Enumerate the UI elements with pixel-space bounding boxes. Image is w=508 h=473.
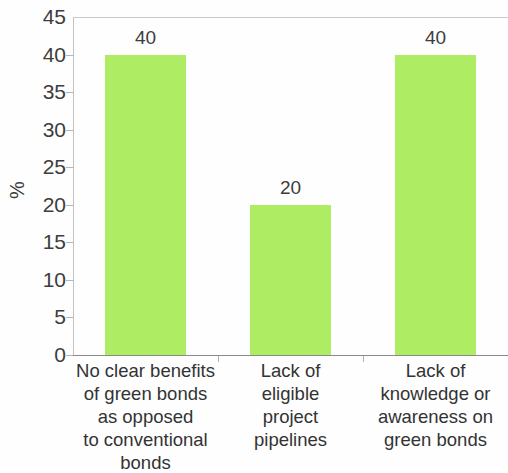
y-tick-label: 30 (22, 119, 66, 140)
bar-value-label: 40 (396, 28, 476, 47)
y-tick-mark (66, 130, 73, 131)
category-label-line: as opposed (73, 405, 218, 428)
bar (395, 55, 475, 355)
bar-value-label: 20 (251, 178, 331, 197)
category-label-line: of green bonds (73, 382, 218, 405)
y-tick-label: 10 (22, 269, 66, 290)
y-tick-mark (66, 205, 73, 206)
category-label-line: bonds (73, 451, 218, 473)
category-label: No clear benefitsof green bondsas oppose… (73, 359, 218, 473)
category-label-line: to conventional (73, 428, 218, 451)
y-tick-label: 15 (22, 231, 66, 252)
y-tick-label: 25 (22, 156, 66, 177)
y-tick-mark (66, 355, 73, 356)
bar-value-label: 40 (106, 28, 186, 47)
category-label-line: awareness on (363, 405, 508, 428)
y-tick-mark (66, 242, 73, 243)
y-tick-label: 45 (22, 6, 66, 27)
y-tick-label: 5 (22, 306, 66, 327)
bar (105, 55, 185, 355)
y-tick-mark (66, 92, 73, 93)
y-tick-mark (66, 317, 73, 318)
y-tick-mark (66, 280, 73, 281)
category-label-line: project (218, 405, 363, 428)
category-label-line: No clear benefits (73, 359, 218, 382)
category-label-line: eligible (218, 382, 363, 405)
category-label-line: pipelines (218, 428, 363, 451)
y-tick-label: 40 (22, 44, 66, 65)
category-label: Lack ofknowledge orawareness ongreen bon… (363, 359, 508, 451)
y-tick-label: 0 (22, 344, 66, 365)
x-axis-baseline (73, 355, 508, 356)
y-axis-tick-labels: 454035302520151050 (20, 0, 66, 468)
x-axis-category-labels: No clear benefitsof green bondsas oppose… (73, 359, 508, 468)
category-label-line: knowledge or (363, 382, 508, 405)
y-tick-mark (66, 55, 73, 56)
category-label-line: green bonds (363, 428, 508, 451)
y-tick-label: 20 (22, 194, 66, 215)
category-label: Lack ofeligibleprojectpipelines (218, 359, 363, 451)
y-tick-mark (66, 167, 73, 168)
bar (250, 205, 330, 355)
category-label-line: Lack of (363, 359, 508, 382)
y-tick-label: 35 (22, 81, 66, 102)
category-label-line: Lack of (218, 359, 363, 382)
